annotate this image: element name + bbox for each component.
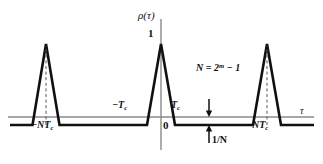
x-axis-label: τ — [300, 106, 304, 116]
origin-label: 0 — [163, 120, 169, 131]
neg-period-base: −NT — [31, 119, 50, 130]
plot-canvas — [0, 0, 323, 164]
formula-rhs: − 1 — [224, 62, 240, 73]
x-tick-label-neg-chip: −Tc — [112, 100, 127, 111]
neg-chip-base: −T — [112, 99, 124, 110]
x-tick-label-pos-chip: Tc — [171, 100, 180, 111]
pos-period-subscript: c — [265, 124, 268, 131]
autocorrelation-figure: ρ(τ) 1 τ 0 −Tc Tc −NTc NTc N = 2m − 1 1/… — [0, 0, 323, 164]
floor-level-annotation: 1/N — [212, 135, 227, 145]
neg-period-subscript: c — [50, 124, 53, 131]
sequence-length-annotation: N = 2m − 1 — [196, 63, 240, 73]
y-axis-label: ρ(τ) — [138, 10, 155, 21]
y-tick-label-one: 1 — [148, 28, 154, 39]
pos-period-base: NT — [252, 119, 265, 130]
x-tick-label-neg-period: −NTc — [31, 120, 53, 131]
x-tick-label-pos-period: NTc — [252, 120, 268, 131]
neg-chip-subscript: c — [124, 104, 127, 111]
formula-equals: = 2 — [203, 62, 219, 73]
floor-gap-arrow-down — [206, 99, 212, 117]
correlation-waveform — [10, 44, 314, 125]
pos-chip-subscript: c — [177, 104, 180, 111]
